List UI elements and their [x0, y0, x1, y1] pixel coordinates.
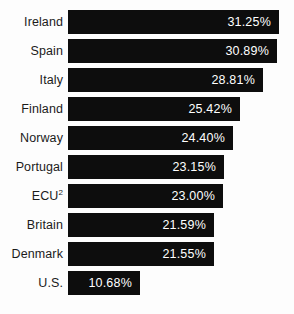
bar-value-label: 21.55% — [162, 247, 206, 261]
bar-row: Norway24.40% — [0, 126, 294, 150]
bar: 25.42% — [68, 97, 240, 121]
bar-value-label: 25.42% — [188, 102, 232, 116]
bar: 21.59% — [68, 213, 214, 237]
bar-value-label: 21.59% — [162, 218, 206, 232]
category-label: U.S. — [0, 276, 68, 290]
bar-value-label: 24.40% — [181, 131, 225, 145]
bar-track: 10.68% — [68, 271, 294, 295]
bar-value-label: 23.15% — [172, 160, 216, 174]
bar-row: Italy28.81% — [0, 68, 294, 92]
bar-value-label: 31.25% — [227, 15, 271, 29]
bar-value-label: 30.89% — [225, 44, 269, 58]
bar: 30.89% — [68, 39, 277, 63]
bar: 24.40% — [68, 126, 233, 150]
category-label: ECU2 — [0, 189, 68, 203]
bar-value-label: 10.68% — [88, 276, 132, 290]
bar-row: Portugal23.15% — [0, 155, 294, 179]
category-label: Italy — [0, 73, 68, 87]
category-label: Spain — [0, 44, 68, 58]
bar-track: 25.42% — [68, 97, 294, 121]
bar: 21.55% — [68, 242, 214, 266]
bar: 10.68% — [68, 271, 140, 295]
bar-row: Denmark21.55% — [0, 242, 294, 266]
bar-value-label: 28.81% — [211, 73, 255, 87]
bar: 23.15% — [68, 155, 224, 179]
bar-row: U.S.10.68% — [0, 271, 294, 295]
bar-track: 21.55% — [68, 242, 294, 266]
category-label: Norway — [0, 131, 68, 145]
category-label: Denmark — [0, 247, 68, 261]
bar-value-label: 23.00% — [171, 189, 215, 203]
category-label: Britain — [0, 218, 68, 232]
bar-row: Ireland31.25% — [0, 10, 294, 34]
bar: 23.00% — [68, 184, 223, 208]
bar-track: 23.15% — [68, 155, 294, 179]
horizontal-bar-chart: Ireland31.25%Spain30.89%Italy28.81%Finla… — [0, 0, 294, 314]
bar-row: ECU223.00% — [0, 184, 294, 208]
bar-track: 31.25% — [68, 10, 294, 34]
category-label: Finland — [0, 102, 68, 116]
bar-row: Britain21.59% — [0, 213, 294, 237]
bar-track: 30.89% — [68, 39, 294, 63]
bar: 28.81% — [68, 68, 263, 92]
category-label: Portugal — [0, 160, 68, 174]
bar-track: 21.59% — [68, 213, 294, 237]
bar: 31.25% — [68, 10, 279, 34]
bar-row: Finland25.42% — [0, 97, 294, 121]
category-label: Ireland — [0, 15, 68, 29]
bar-track: 23.00% — [68, 184, 294, 208]
bar-track: 28.81% — [68, 68, 294, 92]
bar-track: 24.40% — [68, 126, 294, 150]
bar-row: Spain30.89% — [0, 39, 294, 63]
